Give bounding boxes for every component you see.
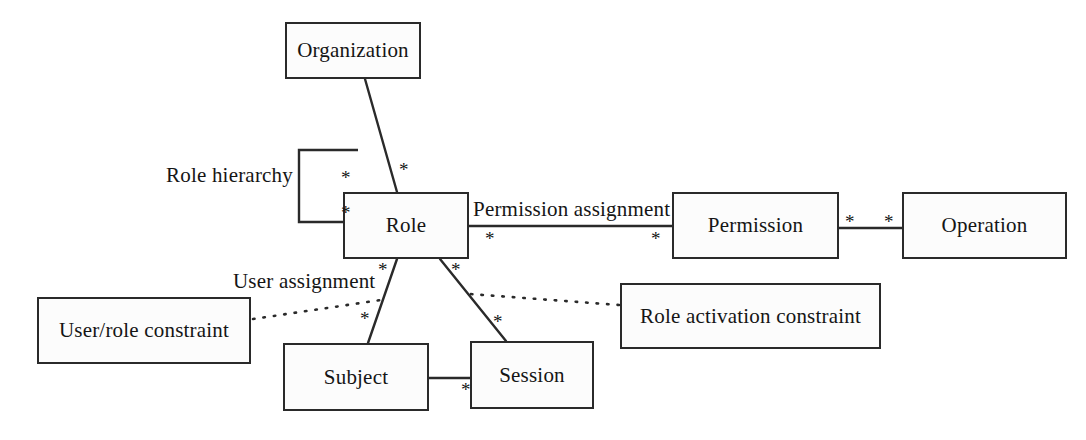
label-role-hierarchy: Role hierarchy bbox=[166, 163, 293, 188]
multiplicity-role-session-top: * bbox=[451, 260, 461, 279]
multiplicity-role-session-bottom: * bbox=[493, 312, 503, 331]
node-permission[interactable]: Permission bbox=[672, 192, 839, 259]
node-organization[interactable]: Organization bbox=[285, 22, 421, 79]
node-subject-label: Subject bbox=[324, 365, 388, 389]
multiplicity-organization-role: * bbox=[399, 160, 409, 179]
node-role-activation-constraint-label: Role activation constraint bbox=[640, 304, 861, 328]
node-subject[interactable]: Subject bbox=[283, 343, 429, 411]
multiplicity-permission-side-permission-assignment: * bbox=[651, 229, 661, 248]
multiplicity-permission-operation-left: * bbox=[845, 212, 855, 231]
node-session[interactable]: Session bbox=[470, 341, 594, 409]
multiplicity-permission-operation-right: * bbox=[884, 212, 894, 231]
node-user-role-constraint[interactable]: User/role constraint bbox=[37, 297, 251, 364]
node-role-activation-constraint[interactable]: Role activation constraint bbox=[620, 283, 881, 349]
label-permission-assignment: Permission assignment bbox=[473, 197, 670, 222]
multiplicity-role-hierarchy-bottom: * bbox=[341, 203, 351, 222]
multiplicity-role-subject-bottom: * bbox=[360, 309, 370, 328]
node-role-label: Role bbox=[386, 213, 426, 237]
node-operation-label: Operation bbox=[942, 213, 1028, 237]
node-operation[interactable]: Operation bbox=[902, 192, 1067, 259]
rbac-diagram: Organization Role Permission Operation U… bbox=[0, 0, 1086, 440]
multiplicity-role-hierarchy-top: * bbox=[341, 168, 351, 187]
connector-role-activation-constraint-dotted bbox=[470, 294, 619, 305]
connector-organization-to-role bbox=[365, 79, 397, 192]
node-role[interactable]: Role bbox=[343, 192, 469, 259]
label-user-assignment: User assignment bbox=[233, 269, 375, 294]
node-session-label: Session bbox=[499, 363, 565, 387]
node-user-role-constraint-label: User/role constraint bbox=[59, 318, 229, 342]
node-organization-label: Organization bbox=[297, 38, 409, 62]
multiplicity-role-subject-top: * bbox=[378, 260, 388, 279]
multiplicity-subject-session: * bbox=[461, 380, 471, 399]
multiplicity-role-side-permission-assignment: * bbox=[485, 229, 495, 248]
node-permission-label: Permission bbox=[708, 213, 803, 237]
